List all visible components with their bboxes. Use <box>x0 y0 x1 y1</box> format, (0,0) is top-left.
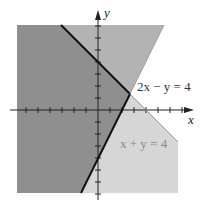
x-axis-label: x <box>187 112 194 127</box>
label-x-plus-y-equals-4: x + y = 4 <box>120 136 168 151</box>
y-axis-arrow-icon <box>95 10 101 20</box>
inequality-graph: y x 2x − y = 4 x + y = 4 <box>0 0 206 208</box>
label-2x-minus-y-equals-4: 2x − y = 4 <box>137 79 191 94</box>
y-axis-label: y <box>102 5 110 20</box>
